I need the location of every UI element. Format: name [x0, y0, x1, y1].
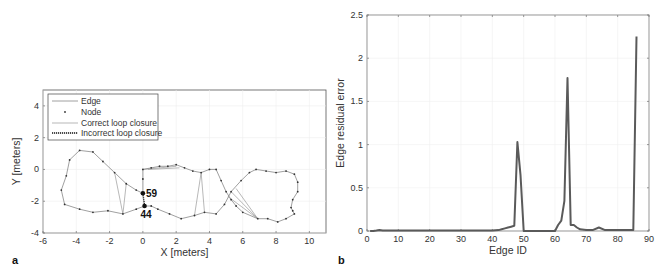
x-tick-label: 30: [456, 234, 466, 244]
x-tick-label: -2: [106, 236, 114, 246]
node-marker: [175, 164, 177, 166]
node-marker: [159, 165, 161, 167]
residual-plot: 010203040506070809000.511.522.5 Edge ID …: [334, 10, 654, 266]
x-tick-label: 70: [581, 234, 591, 244]
node-marker: [194, 215, 196, 217]
node-marker: [157, 208, 159, 210]
node-marker: [167, 165, 169, 167]
y-tick-label: -2: [31, 196, 39, 206]
node-marker: [240, 180, 242, 182]
x-tick-label: -4: [72, 236, 80, 246]
x-tick-label: 20: [425, 234, 435, 244]
node-marker: [122, 213, 124, 215]
x-tick-label: 40: [487, 234, 497, 244]
legend-node-label: Node: [81, 107, 102, 117]
node-marker: [209, 169, 211, 171]
node-marker: [169, 213, 171, 215]
node-marker: [215, 213, 217, 215]
x-tick-label: 50: [519, 234, 529, 244]
node-marker: [142, 178, 144, 180]
node-marker: [60, 189, 62, 191]
node-marker: [135, 208, 137, 210]
node-44-label: 44: [141, 209, 153, 220]
y-tick-label: 1: [358, 140, 363, 150]
node-marker: [92, 151, 94, 153]
legend: Edge Node Correct loop closure Incorrect…: [48, 94, 163, 140]
node-marker: [204, 211, 206, 213]
node-marker: [242, 211, 244, 213]
node-marker: [200, 172, 202, 174]
x-tick-label: 10: [393, 234, 403, 244]
x-tick-label: 10: [304, 236, 314, 246]
node-marker: [114, 172, 116, 174]
highlighted-node: [141, 191, 146, 196]
node-marker: [297, 181, 299, 183]
legend-node-swatch: [64, 111, 66, 113]
y-axis-label-b: Edge residual error: [334, 78, 346, 168]
node-59-label: 59: [146, 188, 158, 199]
node-marker: [235, 205, 237, 207]
plot-b-axes-box: [367, 15, 649, 231]
y-tick-label: 2: [34, 133, 39, 143]
node-marker: [220, 180, 222, 182]
y-tick-label: 0: [358, 226, 363, 236]
x-tick-label: 0: [364, 234, 369, 244]
node-marker: [293, 213, 295, 215]
x-tick-label: 8: [274, 236, 279, 246]
highlighted-node: [142, 204, 147, 209]
node-marker: [293, 173, 295, 175]
y-tick-label: 0.5: [350, 183, 363, 193]
node-marker: [255, 169, 257, 171]
node-marker: [125, 183, 127, 185]
x-tick-label: 2: [174, 236, 179, 246]
node-marker: [192, 170, 194, 172]
node-marker: [79, 208, 81, 210]
node-marker: [265, 170, 267, 172]
node-marker: [277, 221, 279, 223]
legend-incorrect-label: Incorrect loop closure: [81, 128, 163, 138]
y-tick-label: 1.5: [350, 96, 363, 106]
node-marker: [285, 218, 287, 220]
node-marker: [225, 191, 227, 193]
x-tick-label: 60: [550, 234, 560, 244]
node-marker: [135, 189, 137, 191]
figure: -6-4-20246810-4-2024 59 44 Edge Node Cor…: [0, 0, 667, 271]
node-marker: [230, 199, 232, 201]
x-axis-label-a: X [meters]: [161, 246, 209, 258]
node-marker: [69, 159, 71, 161]
node-marker: [230, 191, 232, 193]
x-tick-label: 4: [207, 236, 212, 246]
panel-label-b: b: [338, 254, 345, 266]
node-marker: [215, 169, 217, 171]
node-marker: [297, 191, 299, 193]
node-marker: [65, 175, 67, 177]
node-marker: [142, 169, 144, 171]
y-tick-label: -4: [31, 228, 39, 238]
node-marker: [79, 149, 81, 151]
node-marker: [292, 199, 294, 201]
y-axis-label-a: Y [meters]: [10, 138, 22, 186]
node-marker: [249, 172, 251, 174]
legend-edge-label: Edge: [81, 96, 101, 106]
y-tick-label: 2.5: [350, 10, 363, 20]
node-marker: [224, 204, 226, 206]
x-axis-label-b: Edge ID: [489, 244, 527, 256]
x-tick-label: 6: [240, 236, 245, 246]
node-marker: [150, 167, 152, 169]
x-tick-label: -6: [39, 236, 47, 246]
y-tick-label: 2: [358, 53, 363, 63]
node-marker: [107, 210, 109, 212]
y-tick-label: 0: [34, 164, 39, 174]
node-marker: [150, 205, 152, 207]
y-tick-label: 4: [34, 101, 39, 111]
trajectory-plot: -6-4-20246810-4-2024 59 44 Edge Node Cor…: [10, 90, 326, 266]
x-tick-label: 80: [613, 234, 623, 244]
x-tick-label: 0: [140, 236, 145, 246]
node-marker: [257, 218, 259, 220]
node-marker: [290, 207, 292, 209]
node-marker: [92, 211, 94, 213]
node-marker: [180, 218, 182, 220]
legend-correct-label: Correct loop closure: [81, 118, 157, 128]
node-marker: [64, 204, 66, 206]
node-marker: [275, 172, 277, 174]
